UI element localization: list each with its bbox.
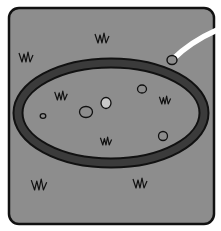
pebble: [159, 132, 168, 141]
pebble: [138, 85, 147, 93]
pebble: [80, 107, 93, 118]
pebble: [101, 98, 111, 109]
meteor-rock: [167, 56, 177, 65]
crater-illustration: [0, 0, 221, 231]
pebble: [40, 114, 46, 119]
